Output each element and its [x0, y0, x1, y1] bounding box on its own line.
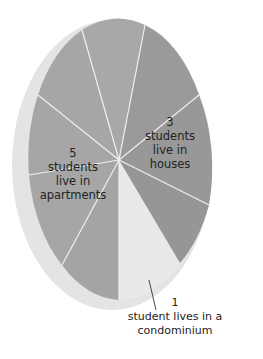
apartments-label: 5 students live in apartments — [30, 146, 116, 202]
houses-label: 3 students live in houses — [138, 115, 202, 171]
condominium-label: 1 student lives in a condominium — [120, 296, 230, 338]
